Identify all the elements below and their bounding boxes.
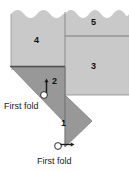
first-fold-upper-label: First fold [4, 101, 39, 111]
region-1-label: 1 [61, 119, 66, 128]
region-4-label: 4 [34, 36, 39, 45]
region-1-shape [65, 95, 92, 147]
region-2-label: 2 [52, 77, 57, 86]
region-5-label: 5 [91, 18, 96, 27]
region-3-shape [65, 36, 129, 95]
diagram-canvas [0, 0, 129, 171]
folding-diagram: 1 2 3 4 5 First fold First fold [0, 0, 129, 171]
first-fold-lower-label: First fold [37, 156, 72, 166]
region-5-shape [65, 0, 129, 40]
region-3-label: 3 [91, 62, 96, 71]
first-fold-lower-pointer [55, 142, 75, 149]
